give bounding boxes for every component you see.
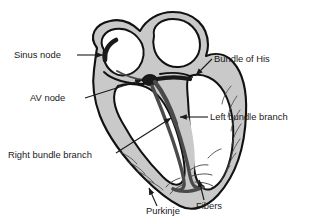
label-purkinje: Purkinje: [146, 205, 180, 216]
label-left-bundle-branch: Left bundle branch: [210, 111, 288, 122]
label-bundle-of-his: Bundle of His: [214, 53, 270, 64]
label-fibers: Fibers: [196, 200, 222, 211]
left-atrium-chamber: [153, 19, 200, 67]
leader-purkinje: [149, 188, 157, 206]
bundle-of-his-origin: [157, 78, 190, 80]
label-sinus-node: Sinus node: [14, 49, 61, 60]
heart-conduction-diagram: Sinus node AV node Right bundle branch B…: [0, 0, 324, 221]
diagram-canvas: Sinus node AV node Right bundle branch B…: [0, 0, 324, 221]
label-right-bundle-branch: Right bundle branch: [8, 149, 92, 160]
label-av-node: AV node: [30, 92, 65, 103]
